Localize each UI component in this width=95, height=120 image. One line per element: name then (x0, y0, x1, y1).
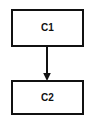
diagram-canvas: C1 C2 (0, 0, 95, 120)
node-c2[interactable]: C2 (11, 80, 84, 115)
node-c2-label: C2 (41, 93, 54, 103)
